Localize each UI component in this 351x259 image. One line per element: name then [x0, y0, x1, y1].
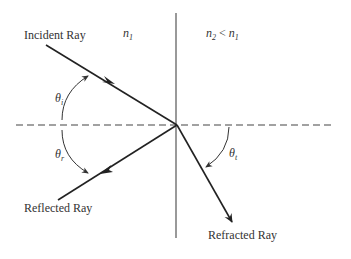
theta-i-arc	[62, 76, 88, 120]
refracted-ray-label: Refracted Ray	[208, 228, 277, 242]
medium-2-label: n2 < n1	[206, 26, 239, 42]
theta-i-label: θi	[55, 91, 63, 107]
theta-t-label: θt	[229, 146, 238, 162]
theta-r-arc	[62, 130, 88, 173]
refracted-ray	[177, 125, 232, 222]
reflected-ray	[58, 125, 177, 200]
reflected-ray-label: Reflected Ray	[24, 201, 92, 215]
incident-ray-label: Incident Ray	[24, 28, 86, 42]
refraction-diagram: Incident Ray Reflected Ray Refracted Ray…	[0, 0, 351, 259]
theta-t-arc	[206, 127, 229, 167]
incident-ray	[46, 45, 177, 125]
theta-r-label: θr	[55, 147, 65, 163]
medium-1-label: n1	[123, 26, 133, 42]
